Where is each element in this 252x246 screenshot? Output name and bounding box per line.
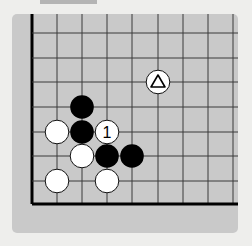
- black-stone: [120, 144, 144, 168]
- white-stone: 1: [95, 120, 119, 144]
- white-stone: [95, 169, 119, 193]
- black-stone: [70, 120, 94, 144]
- move-number-label: 1: [103, 124, 112, 141]
- black-stone: [95, 144, 119, 168]
- white-stone: [45, 169, 69, 193]
- white-stone: [70, 144, 94, 168]
- white-stone: [45, 120, 69, 144]
- go-board: 1: [0, 0, 252, 246]
- white-stone: [146, 70, 170, 94]
- black-stone: [70, 95, 94, 119]
